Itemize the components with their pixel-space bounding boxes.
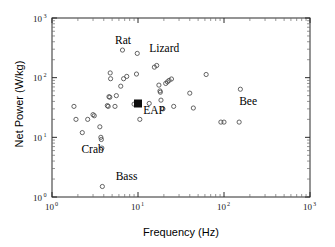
annotation-label-crab: Crab: [81, 143, 103, 155]
y-tick-exponent: 2: [44, 71, 47, 78]
y-axis-title: Net Power (W/kg): [13, 61, 25, 148]
data-point: [237, 120, 241, 124]
data-point: [114, 94, 118, 98]
data-point: [92, 114, 96, 118]
y-tick-exponent: 0: [44, 191, 47, 198]
y-tick-label: 10: [33, 193, 43, 203]
data-point: [113, 104, 117, 108]
data-point: [86, 117, 90, 121]
y-tick-label: 10: [33, 14, 43, 24]
data-point: [222, 120, 226, 124]
y-tick-label: 10: [33, 73, 43, 83]
figure-container: 100101102103100101102103 RatLizardBeeEAP…: [0, 0, 335, 247]
x-tick-label: 10: [45, 202, 55, 212]
scatter-plot: 100101102103100101102103: [0, 0, 335, 247]
data-point: [204, 72, 208, 76]
x-axis-title: Frequency (Hz): [143, 226, 219, 238]
data-point: [159, 98, 163, 102]
data-point: [157, 83, 161, 87]
data-point: [138, 117, 142, 121]
x-tick-exponent: 0: [55, 200, 58, 207]
data-point: [134, 72, 138, 76]
data-point: [125, 74, 129, 78]
annotation-label-bass: Bass: [116, 170, 138, 182]
data-point: [119, 84, 123, 88]
y-tick-label: 10: [33, 133, 43, 143]
annotation-label-rat: Rat: [115, 34, 131, 46]
axis-ticks: [52, 18, 310, 197]
data-point: [135, 51, 139, 55]
y-tick-exponent: 3: [44, 12, 47, 19]
y-tick-exponent: 1: [44, 131, 47, 138]
plot-frame: [52, 18, 310, 197]
data-point: [238, 87, 242, 91]
x-tick-exponent: 1: [141, 200, 144, 207]
axes: [52, 18, 310, 197]
data-point: [80, 131, 84, 135]
data-point: [98, 125, 102, 129]
data-point: [74, 117, 78, 121]
data-point: [120, 48, 124, 52]
data-point: [108, 71, 112, 75]
data-point: [72, 104, 76, 108]
x-tick-label: 10: [217, 202, 227, 212]
data-points: [72, 48, 243, 189]
data-point-eap: [134, 100, 142, 108]
data-point: [100, 184, 104, 188]
x-tick-exponent: 2: [227, 200, 230, 207]
data-point: [172, 104, 176, 108]
x-axis-title-wrap: Frequency (Hz): [52, 222, 310, 240]
data-point: [91, 113, 95, 117]
annotation-label-lizard: Lizard: [149, 42, 179, 54]
x-tick-exponent: 3: [313, 200, 316, 207]
data-point: [108, 77, 112, 81]
data-point: [191, 106, 195, 110]
annotation-label-eap: EAP: [143, 104, 165, 116]
data-point: [188, 91, 192, 95]
x-tick-label: 10: [131, 202, 141, 212]
x-tick-label: 10: [303, 202, 313, 212]
annotation-label-bee: Bee: [239, 95, 257, 107]
